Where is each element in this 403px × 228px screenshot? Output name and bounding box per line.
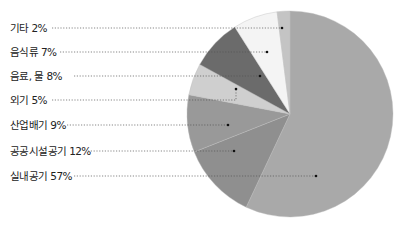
leader-dot [315, 175, 318, 178]
leader-dot [259, 75, 262, 78]
pie-slices [187, 11, 393, 217]
leader-dot [235, 88, 238, 91]
leader-dot [281, 27, 284, 30]
slice-label: 공공시설공기 12% [10, 145, 91, 157]
slice-label: 외기 5% [10, 94, 47, 106]
slice-label: 실내공기 57% [10, 170, 72, 182]
slice-label: 음식류 7% [10, 46, 56, 58]
slice-label: 산업배기 9% [10, 119, 66, 131]
leader-dot [266, 51, 269, 54]
slice-label: 기타 2% [10, 22, 47, 34]
pie-chart [0, 0, 403, 228]
slice-label: 음료, 물 8% [10, 70, 62, 82]
leader-dot [233, 150, 236, 153]
leader-dot [227, 124, 230, 127]
